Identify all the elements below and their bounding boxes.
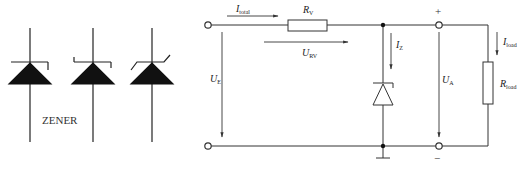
terminal-output-minus[interactable] <box>436 143 442 149</box>
resistor-load <box>483 62 493 104</box>
polarity-minus: − <box>434 152 440 164</box>
diagram-canvas: ZENER <box>0 0 520 172</box>
zener-caption: ZENER <box>42 114 78 126</box>
junction-top <box>381 23 385 27</box>
label-u-a: UA <box>442 74 454 86</box>
label-u-e: UE <box>210 73 221 85</box>
arrows <box>222 16 497 137</box>
label-u-rv: URV <box>302 47 318 59</box>
terminal-output-plus[interactable] <box>436 22 442 28</box>
resistor-rv <box>288 20 327 31</box>
label-i-z: IZ <box>395 39 403 51</box>
label-i-total: Itotal <box>235 3 250 15</box>
terminal-input-bottom[interactable] <box>205 143 211 149</box>
polarity-plus: + <box>435 5 441 17</box>
terminal-input-top[interactable] <box>205 22 211 28</box>
label-i-load: Iload <box>502 36 517 48</box>
zener-symbol-b <box>72 28 114 142</box>
zener-symbol-c <box>131 28 173 142</box>
circuit-wires <box>211 25 488 158</box>
junction-bottom <box>381 144 385 148</box>
label-r-load: Rload <box>499 78 516 90</box>
zener-diode-circuit <box>373 83 393 105</box>
label-r-v: RV <box>302 4 314 16</box>
